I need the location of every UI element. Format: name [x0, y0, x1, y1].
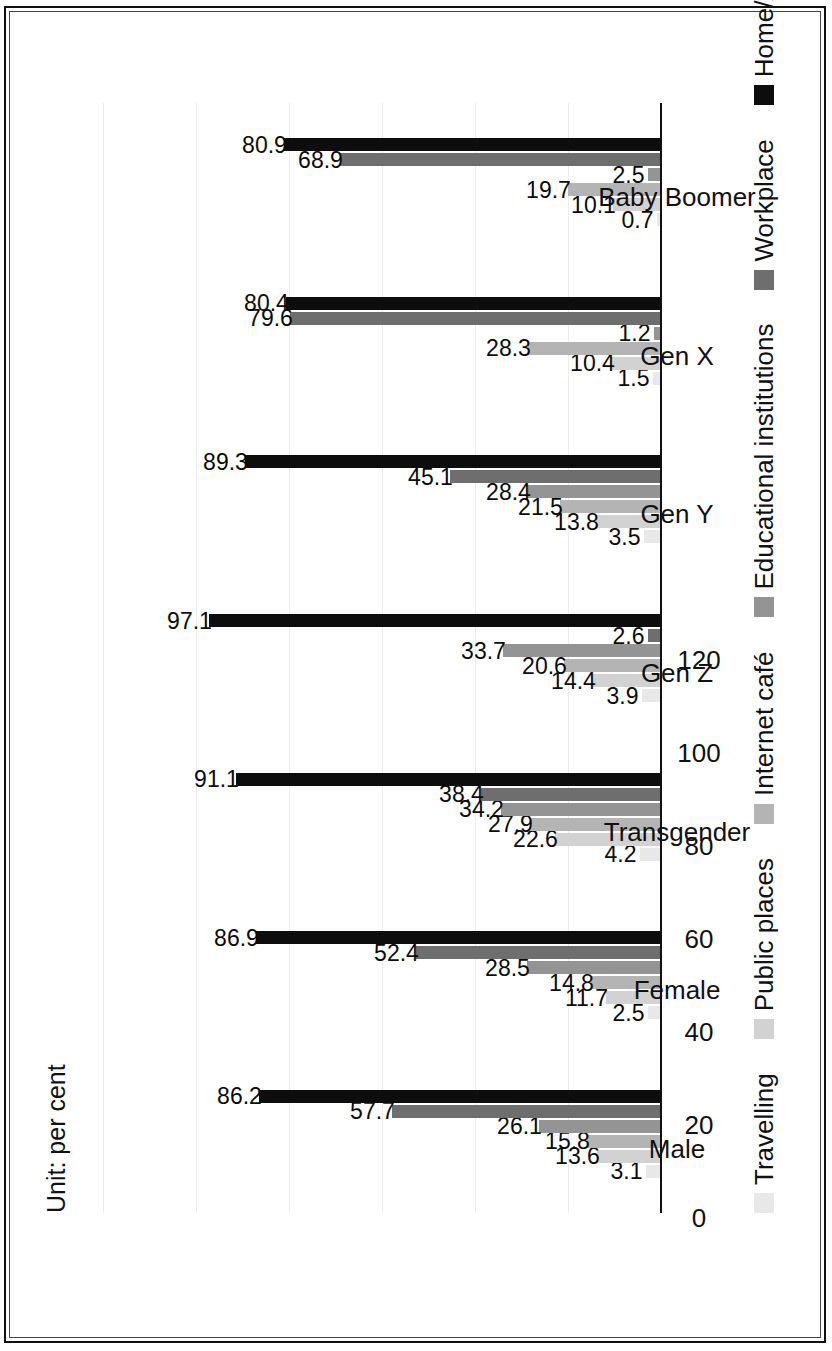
legend-label: Travelling — [749, 1073, 780, 1185]
bar — [392, 1104, 660, 1117]
legend-item[interactable]: Educational institutions — [749, 323, 780, 617]
bar — [340, 153, 660, 166]
legend-label: Educational institutions — [749, 323, 780, 589]
bar-value-label: 97.1 — [154, 607, 224, 634]
chart-legend: TravellingPublic placesInternet caféEduc… — [734, 103, 794, 1213]
legend-item[interactable]: Public places — [749, 858, 780, 1039]
bar-slot: 57.7 — [102, 1104, 660, 1117]
scanned-page: Unit: per cent 3.113.615.826.157.786.22.… — [0, 0, 832, 1351]
legend-item[interactable]: Workplace — [749, 139, 780, 289]
value-axis-tick: 60 — [654, 924, 744, 955]
legend-label: Home/Accomodation — [749, 0, 780, 77]
bar-slot: 89.3 — [102, 455, 660, 468]
plot-area: 3.113.615.826.157.786.22.511.714.828.552… — [102, 103, 662, 1213]
bar-value-label: 80.4 — [232, 289, 302, 316]
legend-item[interactable]: Home/Accomodation — [749, 0, 780, 105]
rotated-figure-wrapper: Unit: per cent 3.113.615.826.157.786.22.… — [16, 21, 816, 1331]
bar — [539, 1119, 660, 1132]
bar — [256, 931, 660, 944]
bar-slot: 86.2 — [102, 1089, 660, 1102]
legend-item[interactable]: Travelling — [749, 1073, 780, 1213]
bar-value-label: 86.2 — [205, 1082, 275, 1109]
bar — [245, 455, 660, 468]
bar — [527, 961, 660, 974]
legend-swatch-icon — [754, 804, 774, 824]
bar — [284, 138, 660, 151]
bar-slot: 68.9 — [102, 153, 660, 166]
legend-label: Workplace — [749, 139, 780, 261]
bar-slot: 97.1 — [102, 614, 660, 627]
value-axis-tick: 0 — [654, 1203, 744, 1234]
legend-swatch-icon — [754, 1019, 774, 1039]
bar-slot: 45.1 — [102, 470, 660, 483]
legend-label: Internet café — [749, 651, 780, 796]
value-axis-tick: 100 — [654, 738, 744, 769]
bar-slot: 2.5 — [102, 168, 660, 181]
bar-slot: 52.4 — [102, 946, 660, 959]
legend-item[interactable]: Internet café — [749, 651, 780, 824]
bar-slot: 91.1 — [102, 772, 660, 785]
bar — [450, 470, 660, 483]
bar-slot: 4.2 — [102, 847, 660, 860]
unit-note: Unit: per cent — [42, 1064, 71, 1213]
bar — [501, 802, 660, 815]
legend-swatch-icon — [754, 85, 774, 105]
bar-value-label: 89.3 — [190, 448, 260, 475]
bar-slot: 33.7 — [102, 644, 660, 657]
bar-slot: 79.6 — [102, 311, 660, 324]
value-axis-tick: 40 — [654, 1017, 744, 1048]
legend-swatch-icon — [754, 1193, 774, 1213]
legend-swatch-icon — [754, 597, 774, 617]
bar-slot: 86.9 — [102, 931, 660, 944]
bar-slot: 80.9 — [102, 138, 660, 151]
bar — [528, 485, 660, 498]
bar-slot: 28.4 — [102, 485, 660, 498]
bar-value-label: 91.1 — [182, 765, 252, 792]
bar — [209, 614, 661, 627]
bar — [236, 772, 660, 785]
legend-label: Public places — [749, 858, 780, 1011]
legend-swatch-icon — [754, 269, 774, 289]
bar — [259, 1089, 660, 1102]
bar-value-label: 80.9 — [229, 131, 299, 158]
bar-slot: 1.2 — [102, 326, 660, 339]
bar — [290, 311, 660, 324]
bar-slot: 34.2 — [102, 802, 660, 815]
bar — [481, 787, 660, 800]
bar-value-label: 86.9 — [201, 924, 271, 951]
bar — [416, 946, 660, 959]
bar-slot: 80.4 — [102, 296, 660, 309]
bar — [286, 296, 660, 309]
grouped-bar-chart: Unit: per cent 3.113.615.826.157.786.22.… — [16, 21, 816, 1331]
